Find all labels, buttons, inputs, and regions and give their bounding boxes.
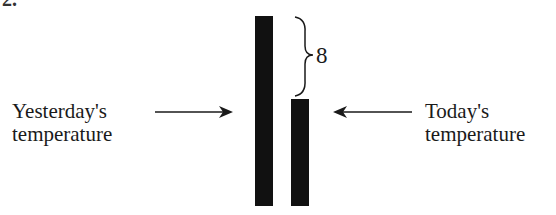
brace-icon	[295, 17, 313, 96]
right-arrow-icon	[155, 106, 233, 118]
difference-label: 8	[316, 44, 328, 67]
left-arrow-icon	[333, 106, 412, 118]
diagram-annotations	[0, 0, 556, 215]
